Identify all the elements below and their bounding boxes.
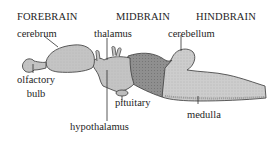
olfactory-bulb-shape <box>23 59 47 72</box>
olfactory-bulb-label-line1: olfactory <box>14 75 58 86</box>
cerebrum-label: cerebrum <box>17 29 57 40</box>
brain-diagram: FOREBRAIN MIDBRAIN HINDBRAIN cerebrum th… <box>0 0 277 143</box>
pituitary-label: pituitary <box>115 98 151 109</box>
midbrain-label: MIDBRAIN <box>116 12 170 23</box>
cerebellum-label: cerebellum <box>168 29 215 40</box>
thalamus-hypothalamus-shape <box>92 47 134 93</box>
forebrain-label: FOREBRAIN <box>17 12 77 23</box>
pituitary-shape <box>116 90 128 96</box>
hypothalamus-label: hypothalamus <box>70 122 129 133</box>
olfactory-bulb-label: olfactory bulb <box>14 75 58 99</box>
thalamus-label: thalamus <box>94 29 132 40</box>
medulla-label: medulla <box>187 110 221 121</box>
hindbrain-label: HINDBRAIN <box>196 12 256 23</box>
olfactory-bulb-label-line2: bulb <box>14 89 58 100</box>
hindbrain-shape <box>162 49 266 101</box>
